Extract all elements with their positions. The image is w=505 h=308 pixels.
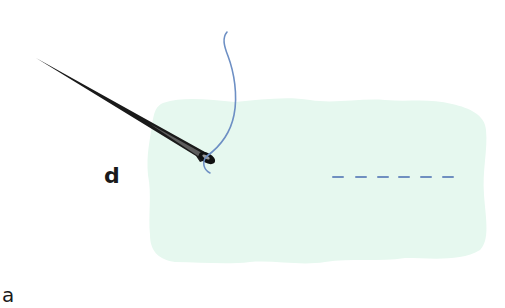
fabric-swatch (147, 98, 486, 263)
panel-label: a (2, 283, 14, 307)
sewing-illustration (0, 0, 505, 308)
step-label: d (104, 163, 120, 188)
